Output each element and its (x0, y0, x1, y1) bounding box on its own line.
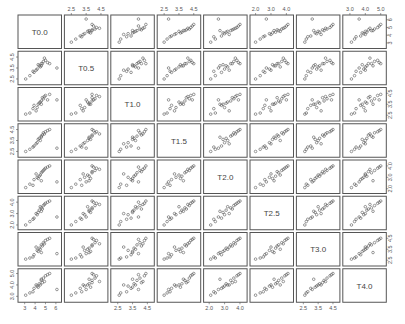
diagonal-label-T4_0: T4.0 (357, 282, 374, 291)
diagonal-label-T1_5: T1.5 (171, 137, 188, 146)
right-tick-label-2-0: 2.5 (387, 111, 393, 119)
left-tick-label-3-2: 4.5 (9, 126, 15, 134)
bottom-tick-label-0-3: 6 (54, 305, 57, 311)
left-tick-label-1-2: 4.5 (9, 53, 15, 61)
panel-frame-2-7 (343, 88, 387, 122)
top-tick-label-5-2: 4.0 (283, 6, 291, 12)
right-tick-label-0-0: 3 (387, 41, 393, 44)
panel-frame-0-7 (343, 15, 387, 49)
left-tick-label-7-1: 4.0 (9, 281, 15, 289)
top-tick-label-7-1: 4.0 (361, 6, 369, 12)
panel-frame-7-3 (157, 269, 201, 303)
panel-frame-2-6 (296, 88, 340, 122)
bottom-tick-label-6-2: 4.5 (329, 305, 337, 311)
bottom-tick-label-0-0: 3 (23, 305, 26, 311)
left-tick-label-5-2: 4.0 (9, 198, 15, 206)
right-tick-label-4-2: 4.0 (387, 162, 393, 170)
top-tick-label-3-1: 3.5 (175, 6, 183, 12)
right-tick-label-2-2: 4.5 (387, 89, 393, 97)
bottom-tick-label-4-1: 3.0 (221, 305, 229, 311)
top-tick-label-7-2: 5.0 (377, 6, 385, 12)
top-tick-label-5-1: 3.0 (267, 6, 275, 12)
panel-frame-5-6 (296, 196, 340, 230)
panel-frame-5-4 (204, 196, 248, 230)
left-tick-label-3-1: 3.5 (9, 137, 15, 145)
panel-frame-5-1 (64, 196, 108, 230)
panel-frame-3-4 (204, 124, 248, 158)
left-tick-label-5-1: 3.0 (9, 210, 15, 218)
bottom-tick-label-2-2: 4.5 (144, 305, 152, 311)
panel-frame-6-3 (157, 233, 201, 267)
diagonal-label-T3_0: T3.0 (310, 245, 327, 254)
left-tick-label-1-1: 3.5 (9, 64, 15, 72)
panel-frame-3-6 (296, 124, 340, 158)
top-tick-label-3-0: 2.5 (160, 6, 168, 12)
right-tick-label-6-0: 2.5 (387, 256, 393, 264)
panel-frame-2-5 (250, 88, 294, 122)
top-tick-label-7-0: 3.0 (346, 6, 354, 12)
panel-frame-5-2 (111, 196, 155, 230)
top-tick-label-3-2: 4.5 (190, 6, 198, 12)
diagonal-label-T0_5: T0.5 (78, 64, 95, 73)
panel-frame-2-1 (64, 88, 108, 122)
left-tick-label-3-0: 2.5 (9, 148, 15, 156)
panel-frame-6-2 (111, 233, 155, 267)
bottom-tick-label-6-1: 3.5 (314, 305, 322, 311)
top-tick-label-1-1: 3.5 (82, 6, 90, 12)
panel-frame-1-2 (111, 51, 155, 85)
panel-frame-7-0 (18, 269, 62, 303)
top-tick-label-1-2: 4.5 (97, 6, 105, 12)
top-tick-label-1-0: 2.5 (68, 6, 76, 12)
left-tick-label-1-0: 2.5 (9, 75, 15, 83)
right-tick-label-6-2: 4.5 (387, 234, 393, 242)
right-tick-label-4-0: 2.0 (387, 185, 393, 193)
bottom-tick-label-2-0: 2.5 (114, 305, 122, 311)
top-tick-label-5-0: 2.0 (252, 6, 260, 12)
left-tick-label-7-2: 5.0 (9, 270, 15, 278)
bottom-tick-label-4-0: 2.0 (205, 305, 213, 311)
panel-frame-7-2 (111, 269, 155, 303)
diagonal-label-T2_5: T2.5 (264, 209, 281, 218)
left-tick-label-7-0: 3.0 (9, 293, 15, 301)
right-tick-label-0-1: 4 (387, 34, 393, 37)
bottom-tick-label-6-0: 2.5 (300, 305, 308, 311)
right-tick-label-0-3: 6 (387, 18, 393, 21)
left-tick-label-5-0: 2.0 (9, 221, 15, 229)
right-tick-label-6-1: 3.5 (387, 245, 393, 253)
right-tick-label-0-2: 5 (387, 26, 393, 29)
bottom-tick-label-2-1: 3.5 (129, 305, 137, 311)
bottom-tick-label-0-2: 5 (44, 305, 47, 311)
bottom-tick-label-4-2: 4.0 (236, 305, 244, 311)
right-tick-label-2-1: 3.5 (387, 100, 393, 108)
diagonal-label-T1_0: T1.0 (125, 100, 142, 109)
panel-frame-7-4 (204, 269, 248, 303)
panel-frame-4-3 (157, 160, 201, 194)
scatterplot-matrix: T0.0T0.5T1.0T1.5T2.0T2.5T3.0T4.02.53.54.… (0, 0, 405, 324)
diagonal-label-T2_0: T2.0 (217, 173, 234, 182)
right-tick-label-4-1: 3.0 (387, 173, 393, 181)
diagonal-label-T0_0: T0.0 (32, 28, 49, 37)
bottom-tick-label-0-1: 4 (34, 305, 37, 311)
